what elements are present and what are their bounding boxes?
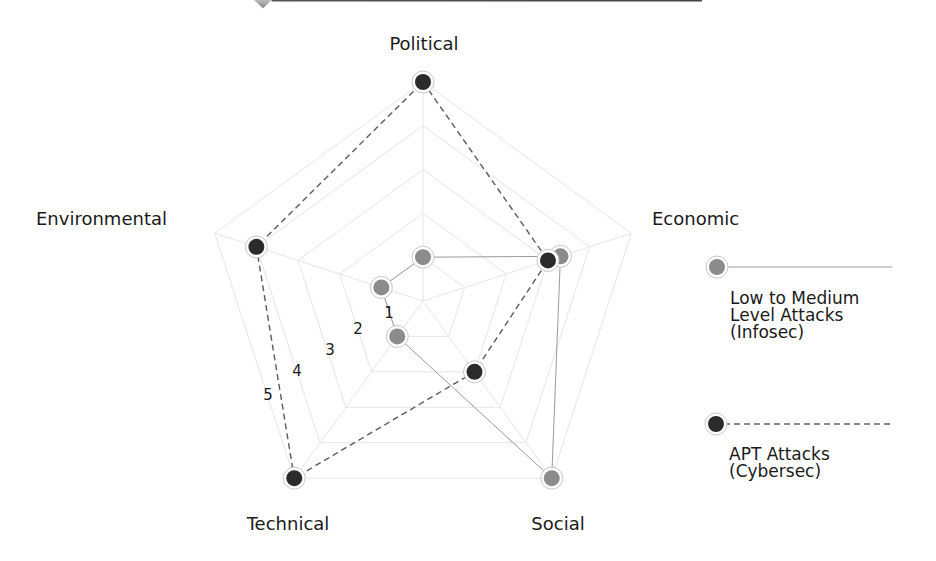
data-point-technical-1 [283, 467, 305, 489]
data-point-environmental-0 [370, 276, 392, 298]
axis-label-technical: Technical [246, 513, 330, 534]
data-point-political-1 [412, 71, 434, 93]
series-dots [245, 71, 571, 489]
data-point-economic-1 [537, 249, 559, 271]
scale-label-4: 4 [292, 362, 302, 380]
data-point-social-1 [463, 361, 485, 383]
scale-label-5: 5 [263, 386, 273, 404]
data-point-technical-0 [386, 325, 408, 347]
grid-spoke-social [423, 301, 552, 478]
axis-label-environmental: Environmental [36, 208, 167, 229]
axis-label-social: Social [531, 513, 584, 534]
data-point-environmental-1 [245, 236, 267, 258]
series-lines [256, 82, 560, 478]
legend-cybersec-line2: (Cybersec) [729, 463, 821, 480]
scale-label-1: 1 [384, 304, 394, 322]
legend-infosec-line3: (Infosec) [730, 324, 804, 341]
radar-grid [215, 82, 632, 478]
axis-label-economic: Economic [652, 208, 739, 229]
axis-label-political: Political [389, 33, 458, 54]
data-point-social-0 [541, 467, 563, 489]
legend-infosec-marker [706, 256, 892, 278]
data-point-political-0 [412, 246, 434, 268]
legend-cybersec-marker [705, 413, 892, 435]
scale-label-3: 3 [325, 341, 335, 359]
scale-label-2: 2 [353, 320, 363, 338]
